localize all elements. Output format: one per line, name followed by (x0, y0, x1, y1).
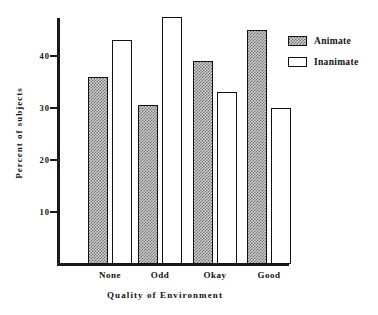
bar-inanimate-good (271, 108, 291, 264)
bar-inanimate-odd (162, 17, 182, 264)
y-axis-tick-label-text: 10 (26, 207, 50, 217)
y-axis-tick-label: 40 (20, 51, 50, 61)
legend-label-inanimate: Inanimate (314, 57, 358, 67)
x-axis-label-good: Good (233, 270, 305, 280)
y-axis-tick-mark (50, 107, 59, 109)
legend-item-inanimate: Inanimate (288, 51, 376, 72)
plot-area (60, 18, 289, 264)
bar-group (193, 18, 237, 264)
bar-group (138, 18, 182, 264)
y-axis-tick-mark (50, 211, 59, 213)
bar-group (88, 18, 132, 264)
x-axis-title: Quality of Environment (0, 290, 330, 300)
legend-swatch-animate-icon (288, 36, 307, 46)
bar-animate-okay (193, 61, 213, 264)
y-axis-tick-label-text: 40 (26, 51, 50, 61)
y-axis-tick-label-text: 20 (26, 155, 50, 165)
legend-swatch-inanimate-icon (288, 57, 307, 67)
y-axis-tick-label-text: 30 (26, 103, 50, 113)
legend-label-animate: Animate (314, 36, 351, 46)
bar-inanimate-okay (217, 92, 237, 264)
y-axis-tick-label: 20 (20, 155, 50, 165)
legend-item-animate: Animate (288, 30, 376, 51)
bar-chart-figure: 10203040 NoneOddOkayGood Quality of Envi… (0, 0, 378, 315)
y-axis-tick-label: 30 (20, 103, 50, 113)
y-axis-title: Percent of subjects (14, 68, 24, 198)
bar-group (247, 18, 291, 264)
y-axis-tick-mark (50, 55, 59, 57)
y-axis-tick-label: 10 (20, 207, 50, 217)
chart-legend: Animate Inanimate (288, 30, 376, 72)
bar-animate-odd (138, 105, 158, 264)
bar-animate-good (247, 30, 267, 264)
bar-animate-none (88, 77, 108, 264)
bar-inanimate-none (112, 40, 132, 264)
y-axis-tick-mark (50, 159, 59, 161)
